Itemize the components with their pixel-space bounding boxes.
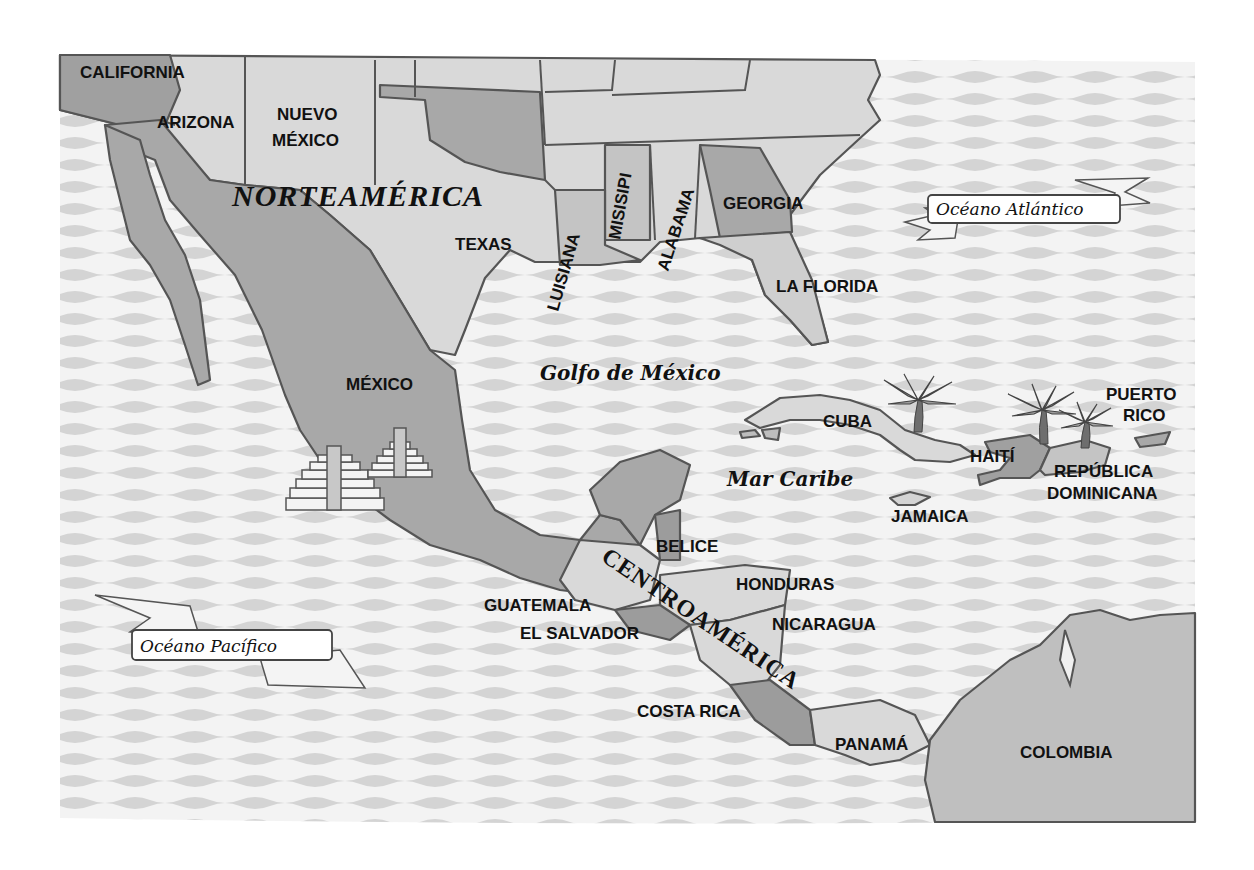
haiti-label: HAITÍ (970, 447, 1016, 466)
norteamerica-title: NORTEAMÉRICA (231, 179, 484, 212)
caribe-label: Mar Caribe (726, 467, 853, 491)
rep-dom-label-1: REPÚBLICA (1054, 462, 1153, 481)
nuevo-mexico-label-2: MÉXICO (272, 131, 339, 150)
california-label: CALIFORNIA (80, 63, 185, 82)
puerto-rico-label-2: RICO (1123, 406, 1166, 425)
georgia-label: GEORGIA (723, 194, 803, 213)
jamaica-label: JAMAICA (891, 507, 968, 526)
belice-label: BELICE (656, 537, 718, 556)
honduras-label: HONDURAS (736, 575, 834, 594)
el-salvador-label: EL SALVADOR (520, 624, 639, 643)
golfo-label: Golfo de México (540, 361, 721, 385)
puerto-rico-label-1: PUERTO (1106, 385, 1177, 404)
colombia-label: COLOMBIA (1020, 743, 1113, 762)
map-central-america-caribbean: Océano Atlántico Océano Pacífico NORTEAM… (0, 0, 1254, 870)
atlantic-label: Océano Atlántico (936, 199, 1084, 219)
guatemala-label: GUATEMALA (484, 596, 591, 615)
texas-label: TEXAS (455, 235, 512, 254)
cuba-label: CUBA (823, 412, 872, 431)
nicaragua-label: NICARAGUA (772, 615, 876, 634)
pacific-label: Océano Pacífico (140, 636, 277, 656)
arizona-label: ARIZONA (157, 113, 234, 132)
nuevo-mexico-label-1: NUEVO (277, 105, 337, 124)
costa-rica-label: COSTA RICA (637, 702, 741, 721)
panama-label: PANAMÁ (835, 735, 908, 754)
rep-dom-label-2: DOMINICANA (1047, 484, 1158, 503)
mexico-label: MÉXICO (346, 375, 413, 394)
florida-label: LA FLORIDA (776, 277, 878, 296)
